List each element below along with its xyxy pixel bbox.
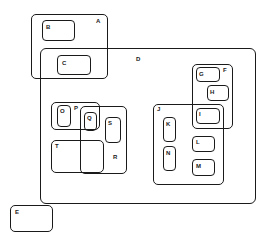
label-q: Q xyxy=(87,115,92,121)
label-l: L xyxy=(196,139,200,145)
label-m: M xyxy=(196,163,201,169)
label-r: R xyxy=(113,154,117,160)
label-p: P xyxy=(74,105,78,111)
label-d: D xyxy=(136,56,140,62)
label-g: G xyxy=(199,71,204,77)
label-e: E xyxy=(15,209,19,215)
label-a: A xyxy=(96,18,100,24)
label-o: O xyxy=(60,108,65,114)
label-c: C xyxy=(62,60,66,66)
label-j: J xyxy=(157,106,160,112)
label-b: B xyxy=(46,24,50,30)
label-k: K xyxy=(166,121,170,127)
label-n: N xyxy=(166,150,170,156)
label-f: F xyxy=(223,67,227,73)
label-t: T xyxy=(55,143,59,149)
label-h: H xyxy=(210,89,214,95)
label-s: S xyxy=(108,120,112,126)
label-i: I xyxy=(199,111,201,117)
